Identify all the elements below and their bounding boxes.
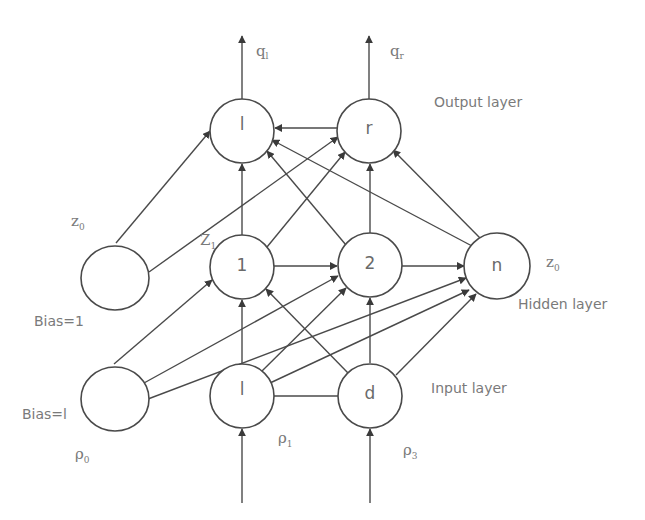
z1-symbol: Z1 bbox=[200, 231, 216, 251]
q-r-symbol: qr bbox=[390, 42, 405, 61]
output-node-r-label: r bbox=[366, 118, 373, 138]
input-node-d-label: d bbox=[365, 383, 376, 403]
rho1-symbol: ρ1 bbox=[278, 429, 293, 449]
edge-hid-bias-to-out-l bbox=[116, 131, 210, 243]
hidden-node-2-label: 2 bbox=[365, 253, 376, 273]
hidden-node-n-label: n bbox=[492, 255, 503, 275]
output-layer-label: Output layer bbox=[434, 94, 522, 110]
hidden-node-1-label: 1 bbox=[237, 255, 248, 275]
edge-hid-1-to-out-r bbox=[267, 152, 345, 247]
edge-hid-n-to-out-r bbox=[393, 150, 480, 238]
rho3-symbol: ρ3 bbox=[403, 441, 418, 461]
hidden-node-1: 1 bbox=[210, 235, 274, 299]
hidden-node-n: n bbox=[464, 233, 530, 299]
output-node-l: l bbox=[210, 99, 274, 163]
input-layer-label: Input layer bbox=[431, 380, 507, 396]
z0-right-symbol: z0 bbox=[546, 253, 560, 273]
z0-left-symbol: z0 bbox=[71, 212, 85, 232]
hidden-node-2: 2 bbox=[338, 233, 402, 297]
neural-network-diagram: l r 1 2 n l d Output layer Hidden layer … bbox=[0, 0, 645, 520]
q-l-symbol: ql bbox=[256, 42, 269, 61]
bias-input-label: Bias=l bbox=[22, 406, 67, 422]
edge-in-d-to-hid-1 bbox=[266, 289, 348, 373]
hidden-layer-label: Hidden layer bbox=[518, 296, 607, 312]
edge-in-bias-to-hid-n bbox=[148, 278, 466, 399]
input-node-l: l bbox=[210, 364, 274, 428]
hidden-bias-node bbox=[81, 246, 149, 310]
input-bias-node bbox=[81, 367, 149, 431]
input-node-d: d bbox=[338, 364, 402, 428]
rho0-symbol: ρ0 bbox=[75, 445, 90, 465]
output-node-l-label: l bbox=[240, 114, 245, 134]
input-node-l-label: l bbox=[240, 379, 245, 399]
output-node-r: r bbox=[337, 99, 401, 163]
bias-hidden-label: Bias=1 bbox=[34, 313, 84, 329]
